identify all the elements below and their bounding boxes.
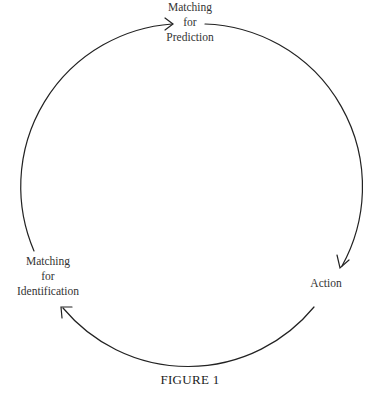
- arc-identification-to-prediction: [21, 24, 172, 251]
- cycle-diagram: [0, 0, 371, 405]
- node-label-line: Matching: [0, 254, 96, 269]
- node-label-line: Prediction: [145, 30, 235, 45]
- arc-prediction-to-action: [205, 24, 362, 266]
- node-matching-for-identification: Matching for Identification: [0, 254, 96, 299]
- node-label-line: for: [0, 269, 96, 284]
- node-label-line: Action: [296, 276, 356, 291]
- node-action: Action: [296, 276, 356, 291]
- node-label-line: Identification: [0, 284, 96, 299]
- arc-action-to-identification: [63, 307, 314, 366]
- node-matching-for-prediction: Matching for Prediction: [145, 0, 235, 45]
- node-label-line: Matching: [145, 0, 235, 15]
- figure-caption: FIGURE 1: [120, 372, 260, 388]
- node-label-line: for: [145, 15, 235, 30]
